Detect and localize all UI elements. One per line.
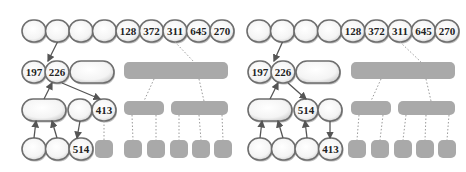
level2-wide-node-shape [22,99,66,121]
top-row-node: 645 [412,20,437,44]
arrow [260,121,262,138]
top-row-node-label: 128 [345,25,362,37]
grey-leaf [124,140,142,158]
level3-node: 514 [69,138,94,162]
top-row-node-shape [93,20,117,42]
arrow [34,121,36,138]
arrow [62,83,100,99]
arrow [288,83,306,99]
top-row-node-shape [294,20,318,42]
top-row-node: 372 [365,20,390,44]
dotted-link [403,115,406,140]
dotted-link [222,115,223,140]
level3-node [46,138,71,162]
top-row-node-label: 372 [368,25,385,37]
dotted-link [132,115,133,140]
grey-leaf [438,140,456,158]
dotted-link [426,79,431,101]
dotted-link [425,115,426,140]
level3-node-shape [46,138,70,160]
level1-node-label: 226 [49,66,66,78]
top-row-node-label: 645 [415,25,432,37]
top-row-node [22,20,47,44]
top-row-node: 311 [163,20,188,44]
grey-block-level2 [171,101,228,115]
level3-node-shape [272,138,296,160]
dotted-link [175,42,194,62]
dotted-link [400,42,421,62]
top-row-node-label: 128 [120,25,137,37]
dotted-link [447,115,449,140]
arrow [278,121,283,138]
arrow [270,83,278,99]
level3-node-label: 413 [322,143,339,155]
level3-node-label: 514 [73,143,90,155]
top-row-node: 270 [435,20,460,44]
level2-mid-node-label: 514 [298,104,315,116]
level3-node [248,138,273,162]
level3-node-shape [295,138,319,160]
grey-leaf [371,140,389,158]
arrow [274,42,283,61]
level1-empty-node [70,61,115,85]
grey-leaf [170,140,188,158]
grey-leaf [394,140,412,158]
level3-node [295,138,320,162]
grey-block-level2 [124,101,164,115]
level3-node-shape [22,138,46,160]
grey-block-level2 [398,101,455,115]
dotted-link [199,79,204,101]
level2-right-node: 413 [92,99,117,123]
top-row-node-shape [318,20,342,42]
grey-leaf [95,140,113,158]
level2-wide-node-shape [248,99,292,121]
top-row-node: 128 [341,20,366,44]
level1-empty-node [296,61,341,85]
top-row-node: 372 [140,20,165,44]
arrow [305,121,307,138]
top-row-node [93,20,118,44]
top-row-node: 270 [210,20,235,44]
level1-node: 197 [248,61,273,85]
arrow [44,83,52,99]
top-row-node-shape [46,20,70,42]
arrow [52,121,57,138]
grey-block-level1 [351,62,455,79]
grey-leaf [192,140,210,158]
top-row-node [318,20,343,44]
top-row-node-shape [271,20,295,42]
panel-before: 128372311645270197226413514 [22,20,235,162]
top-row-node-label: 270 [214,25,231,37]
top-row-node-label: 311 [167,25,183,37]
dotted-link [144,79,154,101]
top-row-node-label: 645 [190,25,207,37]
grey-leaf [214,140,232,158]
level2-right-node-shape [318,99,342,121]
level1-empty-node-shape [296,61,340,83]
grey-block-level2 [351,101,391,115]
level1-node-label: 197 [26,66,43,78]
level3-node-shape [248,138,272,160]
grey-block-level1 [124,62,228,79]
top-row-node [247,20,272,44]
dotted-link [380,115,383,140]
level1-node-label: 226 [275,66,292,78]
top-row-node [46,20,71,44]
level2-mid-node [68,99,93,123]
level3-node [272,138,297,162]
level2-right-node [318,99,343,123]
top-row-node-label: 311 [392,25,408,37]
top-row-node [271,20,296,44]
level1-node: 226 [271,61,296,85]
panel-after: 128372311645270197226514413 [247,20,460,162]
top-row-node: 128 [116,20,141,44]
level3-node: 413 [319,138,344,162]
level2-right-node-label: 413 [96,104,113,116]
level2-wide-node [248,99,293,123]
dotted-link [357,115,359,140]
diagram: 128372311645270197226413514 128372311645… [0,0,466,172]
arrow [77,121,80,138]
top-row-node-label: 270 [439,25,456,37]
dotted-link [199,115,201,140]
grey-leaf [348,140,366,158]
